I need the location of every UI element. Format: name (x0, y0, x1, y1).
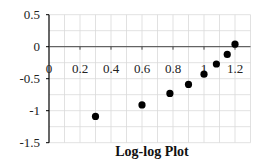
y-tick-label: -0.5 (19, 71, 40, 86)
y-tick-label: 0 (34, 39, 41, 54)
data-point (138, 101, 145, 108)
data-point (231, 41, 238, 48)
x-tick-label: 0.6 (134, 61, 151, 76)
data-point (200, 71, 207, 78)
x-tick-label: 0.2 (72, 61, 88, 76)
x-tick-label: 0 (46, 61, 53, 76)
y-tick-label: 0.5 (24, 7, 40, 22)
data-points (92, 41, 239, 121)
x-tick-label: 1.2 (227, 61, 243, 76)
y-tick-label: -1 (29, 103, 40, 118)
log-log-scatter-chart: 0.50-0.5-1-1.500.20.40.60.811.2 Log-log … (0, 0, 264, 165)
data-point (166, 90, 173, 97)
data-point (92, 113, 99, 120)
grid-lines (49, 15, 251, 143)
x-tick-label: 0.8 (165, 61, 181, 76)
data-point (185, 81, 192, 88)
x-tick-label: 0.4 (103, 61, 120, 76)
data-point (213, 60, 220, 67)
y-tick-label: -1.5 (19, 135, 40, 150)
data-point (224, 51, 231, 58)
chart-title: Log-log Plot (115, 144, 189, 159)
